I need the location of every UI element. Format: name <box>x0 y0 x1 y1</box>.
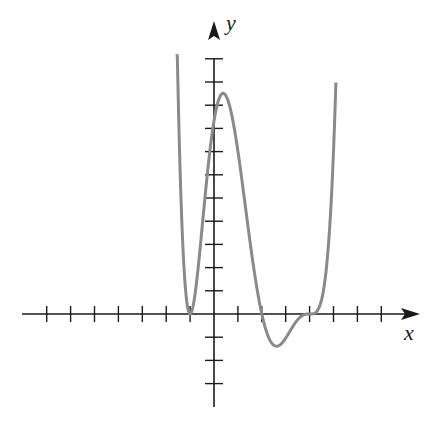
function-graph: y x <box>0 0 428 436</box>
x-axis-label: x <box>403 320 414 345</box>
y-axis-arrow-icon <box>208 21 220 40</box>
y-axis-label: y <box>224 10 236 35</box>
axes <box>22 21 420 407</box>
function-curve <box>177 54 336 346</box>
